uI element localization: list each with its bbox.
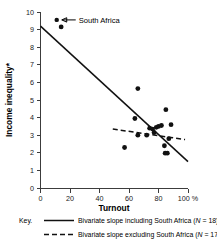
data-point-17 [166, 136, 171, 141]
x-tick-label-60: 60 [125, 194, 133, 203]
y-tick-label-8: 8 [30, 43, 34, 52]
data-point-5 [144, 133, 149, 138]
data-point-4 [122, 145, 127, 150]
data-point-8 [152, 130, 157, 135]
x-tick-label-80: 80 [155, 194, 163, 203]
y-tick-label-2: 2 [30, 148, 34, 157]
legend-entry-0-text-after: = 18) [201, 217, 217, 225]
data-point-15 [165, 151, 170, 156]
data-point-11 [159, 123, 164, 128]
annotation-marker-dot [55, 18, 59, 22]
y-tick-label-4: 4 [30, 113, 34, 122]
x-tick-label-40: 40 [96, 194, 104, 203]
data-point-3 [135, 133, 140, 138]
data-point-1 [135, 86, 140, 91]
legend-entry-excluding-south-africa: Bivariate slope excluding South Africa (… [78, 231, 217, 239]
legend-entry-1-text-before: Bivariate slope excluding South Africa ( [78, 231, 198, 239]
x-axis-title: Turnout [98, 203, 129, 213]
legend-key-label: Key. [19, 217, 32, 225]
data-point-0 [59, 25, 64, 30]
y-tick-label-3: 3 [30, 131, 34, 140]
x-tick-label-0: 0 [39, 194, 43, 203]
y-tick-label-10: 10 [26, 8, 34, 17]
y-tick-label-0: 0 [30, 184, 34, 193]
legend-entry-including-south-africa: Bivariate slope including South Africa (… [78, 217, 217, 225]
y-tick-label-1: 1 [30, 166, 34, 175]
y-tick-label-5: 5 [30, 96, 34, 105]
annotation-label-south-africa: South Africa [79, 16, 121, 25]
chart-figure: 012345678910 020406080100 % Income inequ… [0, 0, 217, 245]
data-point-12 [163, 107, 168, 112]
data-point-2 [133, 116, 138, 121]
data-point-16 [169, 122, 174, 127]
y-axis-title: Income inequality* [4, 62, 14, 137]
data-point-13 [162, 143, 167, 148]
y-tick-label-9: 9 [30, 25, 34, 34]
x-tick-label-100: 100 % [178, 194, 199, 203]
legend-entry-0-text-before: Bivariate slope including South Africa ( [78, 217, 196, 225]
y-tick-label-7: 7 [30, 60, 34, 69]
legend-entry-1-text-after: = 17) [203, 231, 218, 239]
scatter-plot-svg: 012345678910 020406080100 % Income inequ… [0, 0, 217, 245]
y-tick-label-6: 6 [30, 78, 34, 87]
x-tick-label-20: 20 [66, 194, 74, 203]
